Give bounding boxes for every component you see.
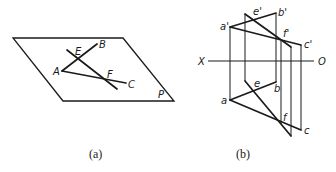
caption-a: (a)	[89, 147, 102, 161]
label-c-top: c	[304, 125, 310, 136]
label-a-top: a	[221, 95, 227, 106]
label-e: E	[75, 46, 82, 57]
label-e-prime: e'	[253, 6, 262, 17]
label-c-prime: c'	[304, 39, 312, 50]
caption-b: (b)	[236, 147, 250, 161]
figure-b: X O a' e' b' f' c' a e b f c	[197, 6, 326, 136]
label-b-prime: b'	[278, 7, 287, 18]
label-f-top: f	[283, 112, 288, 123]
figure-a: B E A F C P	[13, 38, 174, 101]
axis-label-o: O	[318, 56, 326, 67]
label-f-prime: f'	[283, 28, 289, 39]
label-f: F	[107, 69, 113, 80]
label-e-top: e	[254, 78, 260, 89]
diagram-canvas: B E A F C P X O a' e' b' f' c' a e	[0, 0, 336, 172]
label-b: B	[99, 39, 106, 50]
axis-label-x: X	[197, 56, 206, 67]
label-b-top: b	[274, 83, 280, 94]
line-ac	[62, 71, 126, 83]
label-a-prime: a'	[220, 21, 229, 32]
label-p: P	[158, 89, 165, 100]
label-c: C	[128, 79, 135, 90]
label-a: A	[52, 66, 60, 77]
